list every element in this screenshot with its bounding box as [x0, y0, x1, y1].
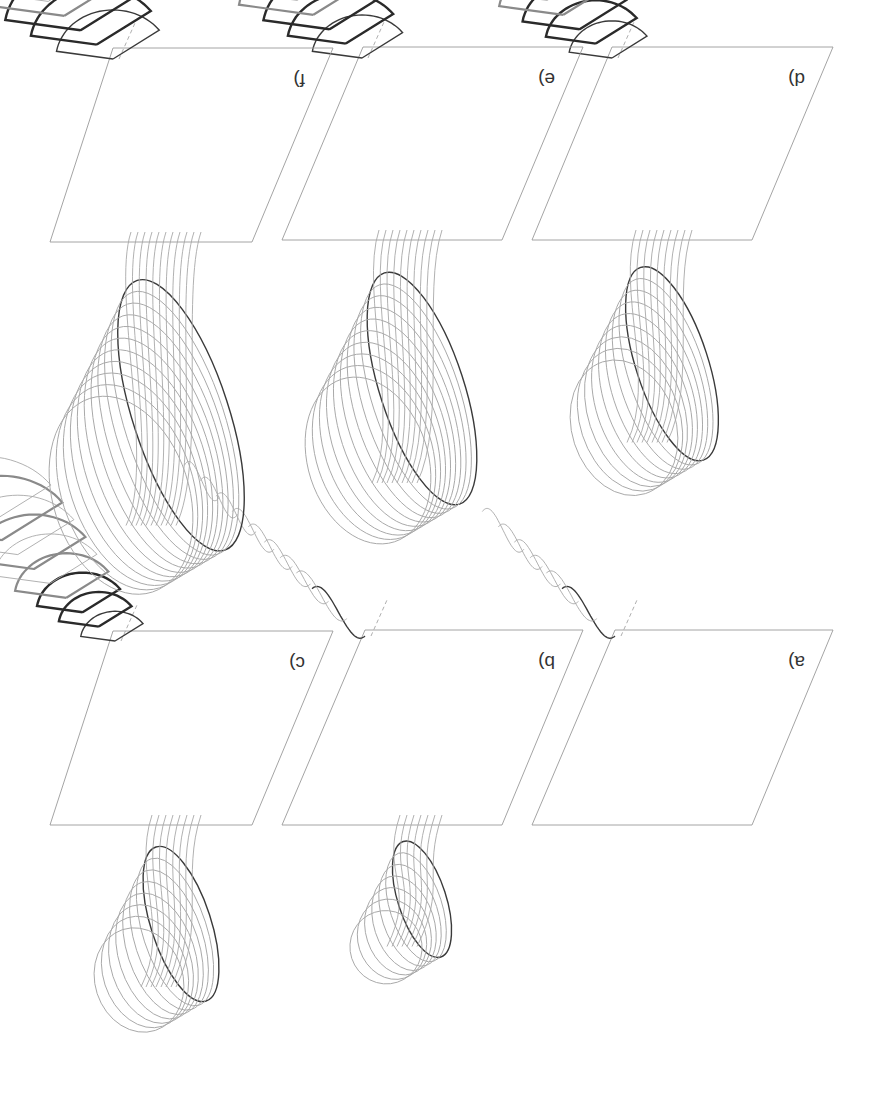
curve — [248, 524, 292, 569]
figure-canvas: a)b)c)d)e)f) — [0, 0, 873, 1113]
curve — [5, 0, 142, 30]
curve — [0, 515, 85, 570]
curve — [31, 0, 151, 45]
curve — [312, 587, 365, 639]
panel-f: f) — [0, 0, 333, 613]
panel-label-d: d) — [788, 69, 805, 90]
curve-family — [359, 0, 647, 58]
strand-curve — [166, 815, 187, 987]
panel-label-a: a) — [788, 652, 805, 673]
curve — [0, 476, 62, 540]
loop-curve — [291, 349, 457, 555]
plane-outline — [532, 47, 833, 240]
strand-curve — [126, 232, 137, 526]
loop-family — [285, 230, 500, 560]
strand-curve — [372, 230, 383, 483]
loop-family — [81, 815, 235, 1044]
panel-a: a) — [482, 508, 833, 825]
curve — [264, 540, 310, 587]
loop-curve — [72, 299, 255, 579]
strand-curve — [156, 232, 173, 526]
plane-outline — [532, 630, 833, 825]
panel-label-c: c) — [289, 653, 305, 674]
loop-curve — [553, 346, 695, 510]
loop-curve — [374, 845, 459, 969]
panels-layer: a)b)c)d)e)f) — [0, 0, 833, 1044]
panel-label-e: e) — [538, 69, 555, 90]
loop-curve — [347, 890, 437, 989]
plane-outline — [282, 630, 583, 825]
loop-family — [25, 232, 271, 613]
loop-curve — [318, 305, 478, 537]
curve — [514, 540, 560, 587]
curve — [0, 534, 97, 584]
strand-curve — [176, 232, 201, 526]
loop-family — [553, 230, 737, 510]
plane-outline — [282, 47, 583, 240]
curve — [498, 524, 542, 569]
strand-curve — [632, 230, 644, 443]
strand-curve — [652, 230, 671, 443]
loop-curve — [580, 301, 716, 490]
panel-c: c) — [0, 457, 333, 1045]
strand-curve — [166, 232, 187, 526]
strand-curve — [407, 230, 428, 483]
loop-curve — [94, 894, 208, 1035]
curve — [482, 508, 524, 552]
loop-curve — [127, 838, 234, 1011]
loop-curve — [586, 290, 721, 486]
loop-family — [340, 815, 463, 993]
panel-label-f: f) — [293, 70, 305, 91]
rotated-figure-group: a)b)c)d)e)f) — [0, 0, 833, 1044]
strand-curve — [141, 232, 153, 526]
strand-curve — [377, 230, 388, 483]
curve-family — [482, 508, 615, 638]
strand-curve — [647, 230, 664, 443]
axis-tick — [621, 600, 637, 636]
curve-family — [0, 0, 159, 59]
strand-curve — [637, 230, 650, 443]
strand-curve — [397, 815, 414, 947]
strand-curve — [146, 815, 159, 987]
curve — [57, 10, 160, 59]
strand-curve — [657, 230, 678, 443]
panel-label-b: b) — [538, 652, 555, 673]
loop-curve — [606, 256, 737, 471]
strand-curve — [141, 815, 153, 987]
axis-tick — [371, 600, 387, 636]
plane-outline — [50, 48, 333, 242]
curve — [0, 0, 125, 1]
curve — [0, 0, 134, 16]
strand-curve — [392, 815, 407, 947]
curve-family — [68, 0, 403, 58]
loop-curve — [560, 335, 700, 505]
curve — [499, 0, 616, 15]
